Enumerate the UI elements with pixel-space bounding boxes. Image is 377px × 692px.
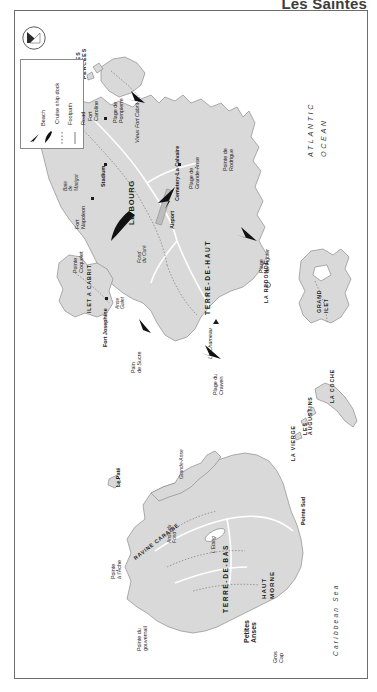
label-grande-anse: Grande-Anse (179, 449, 184, 479)
label-le-pate: Le Paté (116, 468, 122, 487)
label-fort-caroline: Fort Caroline (88, 101, 99, 121)
map-legend: Beach Cruise ship dock Footpath (20, 59, 84, 149)
label-atlantic-ocean-l1: ATLANTIC (307, 102, 315, 157)
label-pointe-de-rodrigue: Pointe de Rodrigue (223, 148, 234, 171)
label-grand-ilet-l2: ILET (324, 289, 329, 313)
label-baie-de-marigot-l3: Marigot (74, 174, 79, 191)
label-anse-galet: Anse Galet (115, 297, 126, 309)
label-plage-du-crawen-l2: Crawen (219, 374, 225, 395)
beach-arrow-figuier (237, 227, 257, 241)
label-fort-josephine: Fort Josephine (103, 308, 109, 347)
beach-arrow-pain-de-sucre (135, 319, 151, 333)
label-la-redonde: LA REDONDE (264, 260, 269, 303)
north-arrow (21, 25, 47, 51)
label-plage-de-grande-anse: Plage de Grande-Anse (189, 157, 200, 189)
label-pointe-du-gouvernail: Pointe du gouvernail (137, 626, 148, 651)
legend-label-footpath: Footpath (67, 103, 73, 125)
label-pointe-sud: Pointe Sud (301, 497, 307, 525)
label-pain-de-sucre: Pain de Sucre (131, 351, 142, 373)
map-frame: Pointe Morel Pointe Zozio LES ROCHES PER… (14, 10, 368, 679)
label-atlantic-ocean-l2: OCEAN (320, 102, 328, 157)
label-letang: L'Etang (211, 536, 216, 553)
label-haut-morne-l2: MORNE (269, 571, 276, 599)
label-anse-du-fond: Anse du Fond (167, 525, 178, 543)
label-la-coche: LA COCHE (330, 369, 335, 403)
label-vieux-fort-cabrit: Vieux Fort Cabrit (135, 103, 141, 143)
label-ilet-a-cabrit: ILET A CABRIT (87, 264, 92, 313)
label-pointe-coquelet-l2: Coquelet (79, 251, 85, 273)
label-petites-anses: Petites Anses (243, 620, 258, 643)
label-plage-de-pompierre: Plage de Pompierre (113, 98, 124, 123)
label-le-chameau: Le Chameau (208, 328, 214, 359)
label-anse-galet-l2: Galet (120, 297, 125, 309)
beach-arrow-icon (29, 133, 40, 144)
label-baie-de-marigot: Baie de Marigot (63, 174, 79, 191)
label-cemetery-la-calvaire: Cemetery-La Calvaire (175, 146, 181, 201)
footpath-dotted-icon (58, 132, 66, 144)
label-gros-cap-l2: Cap (279, 651, 285, 663)
label-pointe-a-lache: Pointe à l'Âche (111, 560, 122, 579)
legend-label-road: Road (80, 112, 86, 125)
legend-label-cruise-ship-dock: Cruise ship dock (54, 83, 60, 124)
dock-arrow-icon (43, 131, 54, 144)
label-la-vierge: LA VIERGE (291, 425, 296, 461)
label-grand-ilet: GRAND ILET (317, 289, 330, 313)
label-gros-cap: Gros Cap (273, 651, 284, 663)
label-fort-napoleon: Fort Napoleon (75, 206, 86, 229)
label-fond-du-cure: Fond du Curé (137, 245, 148, 263)
label-grand-ilet-l1: GRAND (317, 289, 322, 313)
label-airport: Airport (170, 211, 176, 229)
label-haut-morne-l1: HAUT (261, 571, 268, 599)
label-les-augustins-l2: AUGUSTINS (308, 396, 313, 435)
label-fort-napoleon-l2: Napoleon (81, 206, 87, 229)
label-haut-morne: HAUT MORNE (261, 571, 275, 599)
label-fond-du-cure-l2: du Curé (142, 245, 147, 263)
label-atlantic-ocean: ATLANTIC OCEAN (307, 102, 327, 157)
road-line-icon (71, 132, 79, 144)
label-stadium: Stadium (101, 166, 107, 187)
label-caribbean-sea: Caribbean Sea (333, 583, 340, 656)
label-pain-de-sucre-l2: de Sucre (137, 351, 143, 373)
map-page: Les Saintes (0, 0, 377, 692)
label-fort-caroline-l2: Caroline (94, 101, 100, 121)
label-plage-du-crawen: Plage du Crawen (213, 374, 224, 395)
label-le-bourg: LE BOURG (128, 180, 136, 225)
label-pointe-de-rodrigue-l2: Rodrigue (229, 148, 235, 171)
label-plage-de-pompierre-l2: Pompierre (119, 98, 125, 123)
beach-arrow-grande-anse (158, 187, 175, 209)
beach-arrow-pompierre (127, 91, 145, 103)
label-petites-anses-l2: Anses (250, 620, 257, 643)
label-plage-de-grande-anse-l2: Grande-Anse (195, 157, 201, 189)
label-pointe-du-gouvernail-l2: gouvernail (143, 626, 149, 651)
label-anse-du-fond-l2: Fond (172, 525, 177, 543)
label-pointe-a-lache-l2: à l'Âche (117, 560, 123, 579)
label-petites-anses-l1: Petites (243, 620, 250, 643)
label-terre-de-haut: TERRE-DE-HAUT (205, 240, 212, 315)
legend-label-beach: Beach (40, 110, 46, 126)
label-terre-de-bas: TERRE-DE-BAS (223, 544, 230, 613)
label-les-augustins: LES AUGUSTINS (303, 396, 314, 435)
label-pointe-coquelet: Pointe Coquelet (73, 251, 84, 273)
